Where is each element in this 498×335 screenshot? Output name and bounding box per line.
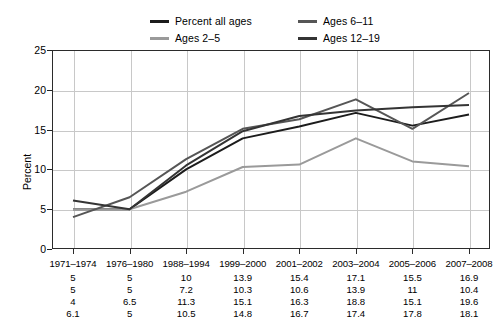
table-cell: 10.4: [434, 284, 498, 296]
x-tick-mark: [299, 249, 300, 254]
x-tick-mark: [73, 249, 74, 254]
legend-swatch-ages-6-11: [298, 20, 317, 23]
legend-entry-ages-2-5: Ages 2–5: [150, 33, 220, 44]
table-row: 551013.915.417.115.516.9: [0, 272, 498, 284]
y-axis-ticks: 0510152025: [22, 48, 46, 258]
table-cell: 19.6: [434, 296, 498, 308]
legend-entry-ages-6-11: Ages 6–11: [298, 16, 373, 27]
y-tick-label: 20: [24, 85, 46, 95]
chart-legend: Percent all ages Ages 6–11 Ages 2–5 Ages…: [150, 16, 450, 52]
y-tick-label: 5: [24, 204, 46, 214]
table-row: 46.511.315.116.318.815.119.6: [0, 296, 498, 308]
x-tick-mark: [243, 249, 244, 254]
series-line-ages-12-19: [73, 105, 469, 209]
legend-label-ages-6-11: Ages 6–11: [323, 16, 373, 27]
legend-swatch-ages-12-19: [298, 37, 317, 40]
x-tick-mark: [130, 249, 131, 254]
legend-label-ages-2-5: Ages 2–5: [175, 33, 220, 44]
x-axis-labels: 1971–19741976–19801988–19941999–20002001…: [0, 258, 498, 272]
table-cell: 16.9: [434, 272, 498, 284]
y-tick-mark: [47, 209, 52, 210]
legend-swatch-ages-2-5: [150, 37, 169, 40]
y-tick-label: 10: [24, 164, 46, 174]
legend-entry-percent-all-ages: Percent all ages: [150, 16, 252, 27]
x-axis-ticks: [0, 249, 498, 255]
y-tick-mark: [47, 50, 52, 51]
legend-swatch-percent-all-ages: [150, 20, 169, 23]
legend-label-percent-all-ages: Percent all ages: [175, 16, 252, 27]
table-cell: 18.1: [434, 308, 498, 320]
legend-label-ages-12-19: Ages 12–19: [323, 33, 380, 44]
series-line-ages-6-11: [73, 93, 469, 217]
x-tick-mark: [186, 249, 187, 254]
series-lines: [52, 50, 490, 249]
table-row: 6.1510.514.816.717.417.818.1: [0, 308, 498, 320]
table-row: 557.210.310.613.91110.4: [0, 284, 498, 296]
y-tick-mark: [47, 169, 52, 170]
x-tick-label: 2007–2008: [434, 258, 498, 269]
data-value-table: 551013.915.417.115.516.9557.210.310.613.…: [0, 272, 498, 330]
x-tick-mark: [412, 249, 413, 254]
y-tick-mark: [47, 130, 52, 131]
legend-entry-ages-12-19: Ages 12–19: [298, 33, 380, 44]
y-tick-mark: [47, 90, 52, 91]
x-tick-mark: [356, 249, 357, 254]
y-tick-label: 25: [24, 45, 46, 55]
series-line-ages-2-5: [73, 138, 469, 209]
y-tick-label: 15: [24, 125, 46, 135]
chart-page: Percent all ages Ages 6–11 Ages 2–5 Ages…: [0, 0, 498, 335]
plot-area: Percent 0510152025: [0, 48, 498, 258]
x-tick-mark: [469, 249, 470, 254]
